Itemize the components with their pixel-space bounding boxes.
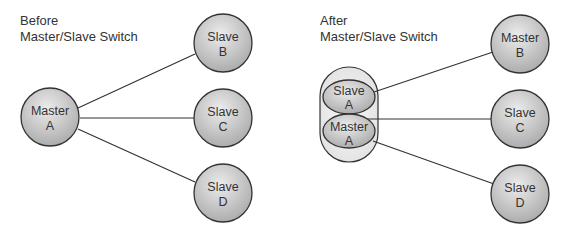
after-node-master-b: Master B	[491, 15, 549, 73]
svg-text:Master: Master	[31, 104, 69, 118]
diagram-canvas: Master A Slave B Slave C Slave D Slave A…	[0, 0, 568, 235]
before-edges	[78, 54, 195, 182]
after-node-slave-a: Slave A	[323, 80, 375, 114]
svg-text:Slave: Slave	[207, 105, 238, 119]
edge-a-d	[78, 129, 195, 182]
edge-a-b	[78, 54, 195, 108]
after-edges	[366, 52, 494, 184]
svg-text:Slave: Slave	[504, 181, 535, 195]
svg-text:A: A	[46, 119, 55, 133]
before-node-slave-c: Slave C	[194, 89, 252, 147]
before-node-slave-b: Slave B	[194, 14, 252, 72]
svg-text:Slave: Slave	[333, 84, 364, 98]
svg-text:A: A	[345, 98, 354, 112]
edge-slave-a-b	[374, 52, 493, 92]
svg-text:B: B	[516, 46, 524, 60]
svg-text:C: C	[218, 120, 227, 134]
svg-text:A: A	[345, 134, 354, 148]
before-node-master-a: Master A	[21, 88, 79, 146]
after-node-slave-d: Slave D	[491, 165, 549, 223]
svg-text:B: B	[219, 45, 227, 59]
edge-master-a-d	[373, 141, 494, 184]
svg-text:Master: Master	[330, 120, 368, 134]
svg-text:D: D	[218, 195, 227, 209]
svg-text:C: C	[515, 121, 524, 135]
svg-text:Slave: Slave	[207, 30, 238, 44]
before-node-slave-d: Slave D	[194, 164, 252, 222]
svg-text:Slave: Slave	[207, 180, 238, 194]
after-node-slave-c: Slave C	[491, 90, 549, 148]
after-node-master-a: Master A	[323, 114, 375, 148]
svg-text:Slave: Slave	[504, 106, 535, 120]
svg-text:D: D	[515, 196, 524, 210]
svg-text:Master: Master	[501, 31, 539, 45]
